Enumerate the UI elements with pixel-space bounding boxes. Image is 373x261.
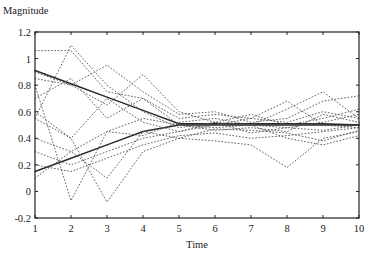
- dotted-line: [35, 65, 359, 122]
- x-tick-label: 3: [104, 223, 109, 234]
- x-axis-title: Time: [186, 239, 208, 250]
- x-tick-label: 5: [176, 223, 181, 234]
- x-tick-label: 7: [248, 223, 253, 234]
- y-tick-labels: -0.200.20.40.60.811.2: [14, 27, 31, 224]
- dotted-line: [35, 51, 359, 123]
- y-tick-label: 1: [26, 54, 31, 65]
- x-tick-label: 6: [212, 223, 217, 234]
- x-tick-labels: 12345678910: [32, 223, 364, 234]
- y-tick-label: 0: [26, 186, 31, 197]
- x-tick-label: 4: [140, 223, 146, 234]
- dotted-line: [35, 122, 359, 165]
- x-tick-label: 1: [32, 223, 37, 234]
- dotted-line: [35, 98, 359, 138]
- dotted-line: [35, 114, 359, 151]
- dotted-line: [35, 128, 359, 172]
- y-tick-label: 0.2: [18, 160, 31, 171]
- dotted-line: [35, 132, 359, 179]
- y-tick-label: 0.4: [18, 133, 32, 144]
- y-tick-label: 0.6: [18, 107, 31, 118]
- x-tick-label: 2: [68, 223, 73, 234]
- x-tick-label: 9: [320, 223, 325, 234]
- y-tick-label: 1.2: [18, 27, 31, 38]
- y-tick-label: 0.8: [18, 80, 31, 91]
- line-chart: 12345678910 -0.200.20.40.60.811.2 Magnit…: [0, 0, 373, 261]
- y-tick-label: -0.2: [14, 213, 31, 224]
- y-axis-title: Magnitude: [3, 5, 49, 16]
- dotted-line: [35, 85, 359, 201]
- x-tick-label: 10: [354, 223, 365, 234]
- x-tick-label: 8: [284, 223, 289, 234]
- plot-lines: [35, 45, 359, 202]
